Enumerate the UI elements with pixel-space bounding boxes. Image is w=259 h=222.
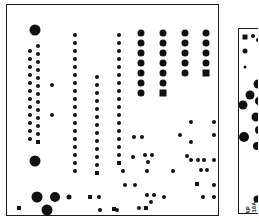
pad-round-pad — [28, 65, 32, 69]
pad-round-pad — [203, 40, 210, 47]
pad-round-pad — [199, 168, 203, 172]
silkscreen-text: Comp — [257, 203, 258, 214]
pad-round-pad — [203, 60, 210, 67]
pad-round-pad — [189, 120, 193, 124]
side-pad-round-pad — [246, 91, 255, 100]
pad-round-pad — [171, 169, 175, 173]
pad-round-pad — [138, 30, 145, 37]
pad-round-pad — [98, 208, 102, 212]
pad-round-pad — [138, 50, 145, 57]
pad-round-pad — [73, 41, 77, 45]
pad-round-pad — [28, 57, 32, 61]
pad-round-pad — [95, 83, 99, 87]
pcb-layout-figure: MAPT216AComp — [0, 0, 258, 222]
pad-round-pad — [67, 195, 72, 200]
pad-round-pad — [73, 129, 77, 133]
pad-round-pad — [30, 156, 41, 167]
pad-round-pad — [117, 129, 121, 133]
side-pad-round-pad — [244, 66, 247, 69]
pad-round-pad — [36, 100, 40, 104]
pad-round-pad — [143, 153, 147, 157]
pad-round-pad — [73, 73, 77, 77]
pad-round-pad — [73, 121, 77, 125]
pad-round-pad — [146, 160, 150, 164]
pad-round-pad — [28, 49, 32, 53]
pad-round-pad — [97, 195, 101, 199]
pad-round-pad — [138, 60, 145, 67]
pad-round-pad — [138, 80, 145, 87]
side-pad-round-pad — [239, 101, 248, 110]
pad-round-pad — [117, 49, 121, 53]
pad-round-pad — [137, 206, 141, 210]
pad-round-pad — [160, 50, 167, 57]
pad-square-pad — [195, 182, 199, 186]
pad-round-pad — [185, 154, 189, 158]
side-pad-round-pad — [243, 49, 248, 54]
pad-round-pad — [28, 105, 32, 109]
pad-round-pad — [28, 121, 32, 125]
pad-round-pad — [36, 116, 40, 120]
pad-round-pad — [182, 70, 189, 77]
pad-round-pad — [42, 205, 53, 216]
pad-round-pad — [28, 97, 32, 101]
pad-round-pad — [95, 163, 99, 167]
pad-round-pad — [203, 50, 210, 57]
pad-round-pad — [36, 68, 40, 72]
pad-round-pad — [133, 183, 137, 187]
pad-round-pad — [117, 41, 121, 45]
pad-round-pad — [182, 40, 189, 47]
pad-round-pad — [117, 81, 121, 85]
pad-round-pad — [73, 145, 77, 149]
side-pad-round-pad — [252, 113, 259, 122]
pad-round-pad — [182, 30, 189, 37]
pad-round-pad — [95, 99, 99, 103]
pad-round-pad — [95, 75, 99, 79]
pad-round-pad — [212, 120, 216, 124]
pad-square-pad — [160, 90, 167, 97]
pad-round-pad — [196, 158, 200, 162]
pad-round-pad — [28, 129, 32, 133]
pad-round-pad — [50, 113, 54, 117]
pad-round-pad — [117, 137, 121, 141]
pad-round-pad — [138, 40, 145, 47]
pad-round-pad — [160, 80, 167, 87]
pad-round-pad — [36, 132, 40, 136]
pad-square-pad — [36, 140, 40, 144]
pad-round-pad — [115, 208, 119, 212]
pad-round-pad — [150, 153, 154, 157]
pad-square-pad — [17, 206, 21, 210]
pad-round-pad — [36, 84, 40, 88]
pad-round-pad — [202, 158, 206, 162]
pad-round-pad — [182, 60, 189, 67]
pad-round-pad — [28, 73, 32, 77]
pad-round-pad — [138, 70, 145, 77]
pad-round-pad — [95, 115, 99, 119]
pad-round-pad — [36, 124, 40, 128]
pad-round-pad — [205, 168, 209, 172]
pad-round-pad — [138, 90, 145, 97]
pad-round-pad — [36, 52, 40, 56]
pad-round-pad — [36, 76, 40, 80]
pad-round-pad — [160, 40, 167, 47]
pad-round-pad — [160, 30, 167, 37]
pad-round-pad — [95, 107, 99, 111]
pad-round-pad — [36, 92, 40, 96]
side-pad-square-pad — [243, 35, 248, 40]
pad-round-pad — [117, 89, 121, 93]
pad-round-pad — [30, 25, 41, 36]
pad-round-pad — [189, 140, 193, 144]
pad-round-pad — [132, 135, 136, 139]
side-board-outline: MAPT216AComp — [238, 28, 258, 214]
pad-square-pad — [117, 161, 121, 165]
pad-round-pad — [178, 133, 182, 137]
pad-round-pad — [160, 70, 167, 77]
side-pad-round-pad — [255, 126, 258, 134]
pad-round-pad — [73, 57, 77, 61]
pad-round-pad — [73, 113, 77, 117]
pad-round-pad — [160, 60, 167, 67]
pad-round-pad — [95, 147, 99, 151]
pad-round-pad — [73, 65, 77, 69]
pad-round-pad — [212, 158, 216, 162]
pad-round-pad — [117, 105, 121, 109]
pad-round-pad — [201, 195, 205, 199]
